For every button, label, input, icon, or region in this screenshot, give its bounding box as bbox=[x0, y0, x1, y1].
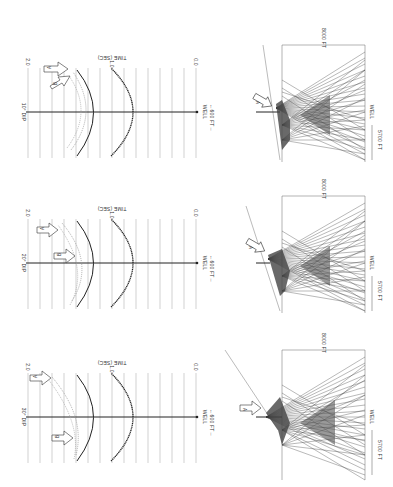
arrow-a: A bbox=[44, 62, 68, 76]
svg-text:B: B bbox=[55, 435, 60, 438]
figure: A B TIME (SEC) 2.0 1.0 0.0 10° DIP WELL … bbox=[0, 0, 393, 487]
time-chart: A B TIME (SEC) 2.0 1.0 0.0 20° DIP WELL … bbox=[21, 206, 215, 309]
svg-text:8000 FT: 8000 FT bbox=[321, 28, 327, 48]
svg-text:A: A bbox=[242, 408, 247, 411]
scale-label: ←600 FT→ bbox=[209, 104, 215, 131]
ray-diagram: 8000 FT A WELL 5700 FT bbox=[244, 179, 383, 313]
svg-text:WELL: WELL bbox=[369, 256, 375, 270]
svg-text:A: A bbox=[248, 246, 253, 249]
svg-text:WELL: WELL bbox=[369, 410, 375, 424]
svg-text:5700 FT: 5700 FT bbox=[377, 130, 383, 150]
svg-text:8000 FT: 8000 FT bbox=[321, 333, 327, 353]
svg-text:30° DIP: 30° DIP bbox=[21, 408, 27, 427]
svg-text:A: A bbox=[33, 375, 38, 378]
tick-1-0: 1.0 bbox=[109, 60, 115, 68]
svg-text:←600 FT→: ←600 FT→ bbox=[209, 409, 215, 436]
svg-text:B: B bbox=[53, 82, 58, 85]
svg-text:B: B bbox=[57, 253, 62, 256]
dip-label: 10° DIP bbox=[21, 103, 27, 122]
svg-text:WELL: WELL bbox=[202, 256, 208, 270]
well-label: WELL bbox=[202, 105, 208, 119]
svg-text:8000 FT: 8000 FT bbox=[321, 179, 327, 199]
svg-text:←600 FT→: ←600 FT→ bbox=[209, 255, 215, 282]
time-chart: A B TIME (SEC) 2.0 1.0 0.0 10° DIP WELL … bbox=[21, 55, 215, 158]
svg-text:WELL: WELL bbox=[369, 105, 375, 119]
svg-text:5700 FT: 5700 FT bbox=[377, 440, 383, 460]
svg-text:5700 FT: 5700 FT bbox=[377, 281, 383, 301]
svg-text:A: A bbox=[47, 66, 52, 69]
svg-text:WELL: WELL bbox=[202, 410, 208, 424]
tick-0-0: 0.0 bbox=[193, 58, 199, 66]
svg-text:A: A bbox=[40, 227, 45, 230]
ray-diagram: 8000 FT A WELL 5700 FT bbox=[225, 333, 383, 480]
time-grid bbox=[28, 68, 196, 158]
tick-2-0: 2.0 bbox=[25, 58, 31, 66]
svg-text:1.0: 1.0 bbox=[109, 365, 115, 373]
svg-text:A: A bbox=[255, 101, 260, 104]
svg-text:0.0: 0.0 bbox=[193, 209, 199, 217]
svg-text:20° DIP: 20° DIP bbox=[21, 254, 27, 273]
svg-text:0.0: 0.0 bbox=[193, 363, 199, 371]
curve-secondary bbox=[77, 70, 94, 156]
panel-30deg: A B TIME (SEC) 2.0 1.0 0.0 30° DIP WELL … bbox=[21, 333, 383, 480]
svg-text:2.0: 2.0 bbox=[25, 209, 31, 217]
svg-text:2.0: 2.0 bbox=[25, 363, 31, 371]
ray-diagram: 8000 FT A WELL 5700 FT bbox=[251, 28, 383, 162]
panel-10deg: A B TIME (SEC) 2.0 1.0 0.0 10° DIP WELL … bbox=[21, 28, 383, 162]
panel-20deg: A B TIME (SEC) 2.0 1.0 0.0 20° DIP WELL … bbox=[21, 179, 383, 313]
curve-multiple-a bbox=[71, 72, 86, 150]
time-chart: A B TIME (SEC) 2.0 1.0 0.0 30° DIP WELL … bbox=[21, 360, 215, 463]
svg-text:1.0: 1.0 bbox=[109, 211, 115, 219]
arrow-b: B bbox=[50, 76, 70, 89]
